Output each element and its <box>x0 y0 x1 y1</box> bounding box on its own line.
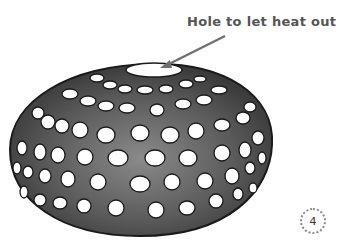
dome-illustration <box>0 0 342 246</box>
heat-hole <box>126 63 182 77</box>
page-number: 4 <box>310 215 317 228</box>
callout-label: Hole to let heat out <box>187 14 336 29</box>
callout-arrow <box>165 36 225 66</box>
page-number-badge: 4 <box>300 208 326 234</box>
